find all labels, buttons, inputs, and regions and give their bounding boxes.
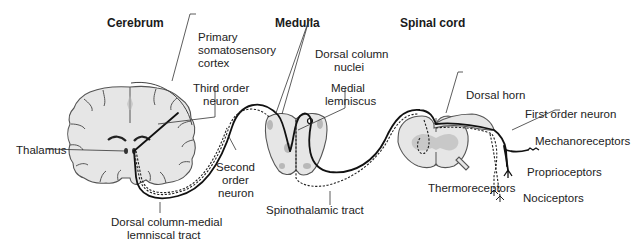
label-dcml-2: lemniscal tract xyxy=(127,229,201,241)
spinal-cord-section xyxy=(398,114,494,170)
header-cerebrum: Cerebrum xyxy=(107,16,164,30)
label-dcml-1: Dorsal column-medial xyxy=(111,216,222,228)
label-thalamus: Thalamus xyxy=(16,144,67,156)
label-medial-lemniscus-1: Medial xyxy=(331,82,365,94)
proprioceptor-icon xyxy=(504,170,512,178)
label-second-order-1: Second xyxy=(216,161,255,173)
label-primary-cortex-2: somatosensory xyxy=(198,44,276,56)
label-nociceptors: Nociceptors xyxy=(523,192,584,204)
label-thermoreceptors: Thermoreceptors xyxy=(428,182,516,194)
label-dorsal-column-nuclei-2: nuclei xyxy=(334,61,364,73)
label-primary-cortex-3: cortex xyxy=(198,57,230,69)
nociceptor-icon xyxy=(496,196,504,202)
label-proprioceptors: Proprioceptors xyxy=(527,166,602,178)
label-dorsal-column-nuclei-1: Dorsal column xyxy=(315,48,389,60)
header-medulla: Medulla xyxy=(275,16,320,30)
header-spinal-cord: Spinal cord xyxy=(400,16,465,30)
label-primary-cortex-1: Primary xyxy=(198,31,238,43)
label-first-order: First order neuron xyxy=(525,108,616,120)
label-third-order-1: Third order xyxy=(193,82,249,94)
somatosensory-pathway-diagram: Cerebrum Medulla Spinal cord xyxy=(0,0,636,249)
cerebrum-section xyxy=(68,82,195,184)
label-medial-lemniscus-2: lemniscus xyxy=(325,95,376,107)
label-third-order-2: neuron xyxy=(203,95,239,107)
label-dorsal-horn: Dorsal horn xyxy=(466,89,525,101)
label-mechanoreceptors: Mechanoreceptors xyxy=(535,135,630,147)
label-second-order-2: order xyxy=(222,174,249,186)
mechanoreceptor-icon xyxy=(528,148,539,150)
label-spinothalamic: Spinothalamic tract xyxy=(266,204,365,216)
label-second-order-3: neuron xyxy=(218,187,254,199)
